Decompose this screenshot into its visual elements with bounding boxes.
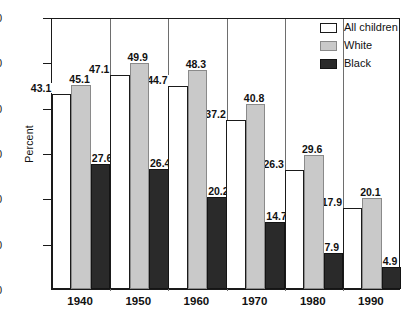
bar-1970-all-children xyxy=(226,120,246,289)
bar-value-label: 40.8 xyxy=(243,93,265,104)
y-tick-mark xyxy=(43,63,51,64)
y-tick-label: 10 xyxy=(0,240,2,251)
legend-item-white[interactable]: White xyxy=(320,38,398,53)
x-tick-label: 1990 xyxy=(341,296,401,308)
bar-1980-all-children xyxy=(285,170,305,289)
bar-value-label: 47.1 xyxy=(88,64,110,75)
bar-1970-white xyxy=(246,104,266,289)
x-tick-label: 1940 xyxy=(50,296,110,308)
legend-label: All children xyxy=(344,22,398,33)
bar-1990-white xyxy=(362,198,382,289)
bar-value-label: 49.9 xyxy=(127,52,149,63)
y-tick-label: 0 xyxy=(0,285,2,296)
bar-value-label: 45.1 xyxy=(68,74,90,85)
y-axis-title: Percent xyxy=(23,99,35,189)
bar-1950-white xyxy=(130,63,150,289)
bar-value-label: 37.2 xyxy=(204,109,226,120)
bar-1980-white xyxy=(304,155,324,289)
y-tick-label: 40 xyxy=(0,104,2,115)
bar-1950-black xyxy=(149,169,169,289)
y-tick-label: 60 xyxy=(0,13,2,24)
bar-value-label: 20.1 xyxy=(359,187,381,198)
y-tick-mark xyxy=(43,109,51,110)
legend-item-black[interactable]: Black xyxy=(320,56,398,71)
bar-value-label: 4.9 xyxy=(382,256,399,267)
legend-label: Black xyxy=(344,58,371,69)
bar-value-label: 7.9 xyxy=(324,242,341,253)
legend-swatch-icon xyxy=(320,23,337,33)
bar-value-label: 44.7 xyxy=(146,75,168,86)
bar-1960-all-children xyxy=(168,86,188,289)
bar-chart: Percent 0102030405060 43.145.127.647.149… xyxy=(0,0,416,329)
legend-item-all-children[interactable]: All children xyxy=(320,20,398,35)
y-tick-mark xyxy=(43,18,51,19)
y-tick-label: 50 xyxy=(0,58,2,69)
bar-1940-black xyxy=(91,164,111,289)
bar-1990-all-children xyxy=(343,208,363,289)
legend-label: White xyxy=(344,40,372,51)
bar-1960-black xyxy=(207,197,227,289)
bar-1990-black xyxy=(382,267,402,289)
bar-1960-white xyxy=(188,70,208,289)
bar-value-label: 29.6 xyxy=(301,144,323,155)
bar-value-label: 26.3 xyxy=(263,159,285,170)
bar-value-label: 17.9 xyxy=(321,197,343,208)
y-tick-mark xyxy=(43,154,51,155)
x-tick-label: 1980 xyxy=(283,296,343,308)
x-tick-label: 1950 xyxy=(108,296,168,308)
bar-1950-all-children xyxy=(110,75,130,289)
y-tick-mark xyxy=(43,245,51,246)
bar-1940-white xyxy=(71,85,91,289)
y-tick-label: 20 xyxy=(0,194,2,205)
bar-value-label: 43.1 xyxy=(30,83,52,94)
legend: All childrenWhiteBlack xyxy=(320,20,398,74)
bar-1980-black xyxy=(324,253,344,289)
legend-swatch-icon xyxy=(320,59,337,69)
legend-swatch-icon xyxy=(320,41,337,51)
y-tick-mark xyxy=(43,199,51,200)
bar-1940-all-children xyxy=(52,94,72,289)
bar-1970-black xyxy=(265,222,285,289)
bar-value-label: 48.3 xyxy=(185,59,207,70)
x-tick-label: 1960 xyxy=(166,296,226,308)
x-tick-label: 1970 xyxy=(225,296,285,308)
y-tick-label: 30 xyxy=(0,149,2,160)
